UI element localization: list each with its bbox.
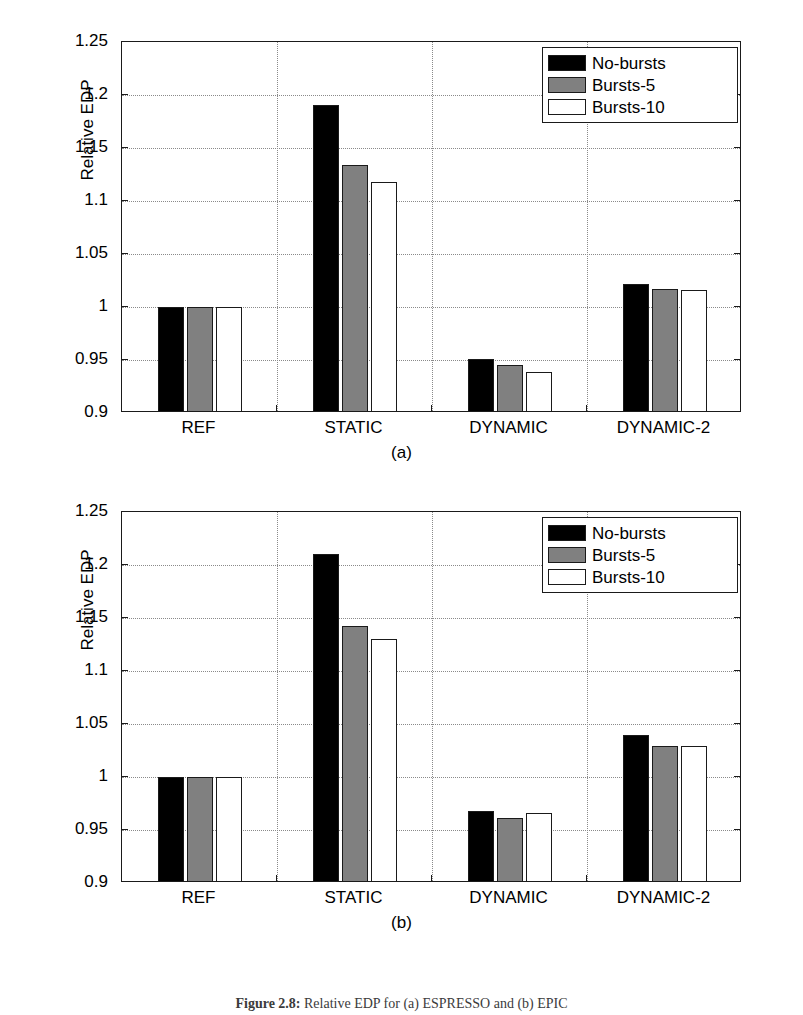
x-tick-mark: [276, 875, 277, 882]
y-tick-mark-right: [734, 670, 741, 671]
bar-static-bursts-5: [342, 165, 368, 411]
legend-item-bursts-5[interactable]: Bursts-5: [548, 544, 731, 566]
y-tick-mark: [121, 617, 128, 618]
legend-swatch-icon: [548, 525, 586, 541]
bar-dynamic-2-bursts-10: [681, 290, 707, 411]
panel-tag-b: (b): [0, 913, 803, 933]
gridline-horizontal: [122, 671, 740, 672]
legend-item-bursts-10[interactable]: Bursts-10: [548, 96, 731, 118]
gridline-horizontal: [122, 254, 740, 255]
gridline-horizontal: [122, 148, 740, 149]
y-tick-label: 1.15: [75, 138, 108, 155]
legend-item-no-bursts[interactable]: No-bursts: [548, 522, 731, 544]
y-tick-mark: [121, 776, 128, 777]
bar-static-no-bursts: [313, 554, 339, 881]
y-tick-mark-right: [734, 147, 741, 148]
figure-caption: Figure 2.8: Relative EDP for (a) ESPRESS…: [0, 996, 803, 1012]
y-tick-label: 1: [99, 767, 108, 784]
y-axis-label-a: Relative EDP: [78, 50, 98, 210]
chart-panel-b: Relative EDP 1.251.21.151.11.0510.950.9 …: [0, 470, 803, 940]
y-tick-mark-right: [734, 306, 741, 307]
legend-label: No-bursts: [592, 55, 666, 72]
figure-caption-label: Figure 2.8:: [235, 996, 300, 1011]
figure-relative-edp: Relative EDP 1.251.21.151.11.0510.950.9 …: [0, 0, 803, 1015]
y-tick-label: 1.2: [84, 85, 108, 102]
legend-item-bursts-10[interactable]: Bursts-10: [548, 566, 731, 588]
legend-label: Bursts-5: [592, 77, 655, 94]
y-tick-label: 1.2: [84, 555, 108, 572]
legend-swatch-icon: [548, 547, 586, 563]
y-axis-label-b: Relative EDP: [78, 520, 98, 680]
bar-static-bursts-10: [371, 182, 397, 411]
legend-item-no-bursts[interactable]: No-bursts: [548, 52, 731, 74]
bar-dynamic-no-bursts: [468, 811, 494, 881]
y-tick-mark: [121, 147, 128, 148]
x-tick-label-static: STATIC: [325, 418, 383, 438]
bar-ref-bursts-10: [216, 307, 242, 411]
bar-dynamic-bursts-5: [497, 818, 523, 881]
legend-a: No-burstsBursts-5Bursts-10: [542, 47, 738, 123]
x-tick-label-dynamic-2: DYNAMIC-2: [617, 888, 711, 908]
bar-ref-bursts-5: [187, 777, 213, 881]
x-tick-mark: [586, 875, 587, 882]
x-tick-label-ref: REF: [182, 888, 216, 908]
legend-label: No-bursts: [592, 525, 666, 542]
x-tick-mark: [276, 405, 277, 412]
legend-swatch-icon: [548, 77, 586, 93]
gridline-horizontal: [122, 724, 740, 725]
y-tick-mark: [121, 670, 128, 671]
legend-label: Bursts-5: [592, 547, 655, 564]
bar-ref-bursts-10: [216, 777, 242, 881]
legend-label: Bursts-10: [592, 99, 665, 116]
y-tick-label: 1.1: [84, 191, 108, 208]
gridline-horizontal: [122, 201, 740, 202]
gridline-vertical: [277, 42, 278, 411]
bar-dynamic-2-bursts-5: [652, 746, 678, 881]
y-tick-mark: [121, 94, 128, 95]
bar-dynamic-2-no-bursts: [623, 284, 649, 411]
y-tick-label: 1.05: [75, 714, 108, 731]
bar-dynamic-2-bursts-10: [681, 746, 707, 881]
y-tick-label: 1.05: [75, 244, 108, 261]
legend-swatch-icon: [548, 99, 586, 115]
gridline-vertical: [277, 512, 278, 881]
bar-ref-no-bursts: [158, 307, 184, 411]
legend-swatch-icon: [548, 55, 586, 71]
y-tick-mark: [121, 253, 128, 254]
legend-swatch-icon: [548, 569, 586, 585]
y-tick-mark-right: [734, 253, 741, 254]
x-tick-label-dynamic: DYNAMIC: [469, 418, 547, 438]
y-tick-mark-right: [734, 617, 741, 618]
x-tick-mark: [431, 405, 432, 412]
y-tick-label: 1.25: [75, 502, 108, 519]
x-tick-mark: [586, 405, 587, 412]
legend-item-bursts-5[interactable]: Bursts-5: [548, 74, 731, 96]
bar-static-bursts-10: [371, 639, 397, 881]
gridline-vertical: [432, 512, 433, 881]
y-tick-mark-right: [734, 776, 741, 777]
y-tick-mark-right: [734, 723, 741, 724]
y-tick-mark: [121, 829, 128, 830]
bar-dynamic-bursts-5: [497, 365, 523, 411]
bar-static-no-bursts: [313, 105, 339, 411]
y-tick-mark: [121, 306, 128, 307]
y-tick-mark: [121, 359, 128, 360]
bar-dynamic-bursts-10: [526, 813, 552, 881]
y-tick-mark-right: [734, 200, 741, 201]
y-tick-label: 1: [99, 297, 108, 314]
x-tick-label-dynamic-2: DYNAMIC-2: [617, 418, 711, 438]
legend-label: Bursts-10: [592, 569, 665, 586]
y-tick-label: 1.25: [75, 32, 108, 49]
x-tick-label-dynamic: DYNAMIC: [469, 888, 547, 908]
y-tick-mark-right: [734, 829, 741, 830]
bar-dynamic-no-bursts: [468, 359, 494, 411]
legend-b: No-burstsBursts-5Bursts-10: [542, 517, 738, 593]
gridline-vertical: [432, 42, 433, 411]
bar-static-bursts-5: [342, 626, 368, 881]
bar-dynamic-bursts-10: [526, 372, 552, 411]
figure-caption-text: Relative EDP for (a) ESPRESSO and (b) EP…: [304, 996, 568, 1011]
y-tick-label: 0.95: [75, 350, 108, 367]
y-tick-mark-right: [734, 359, 741, 360]
bar-ref-no-bursts: [158, 777, 184, 881]
y-tick-mark: [121, 200, 128, 201]
